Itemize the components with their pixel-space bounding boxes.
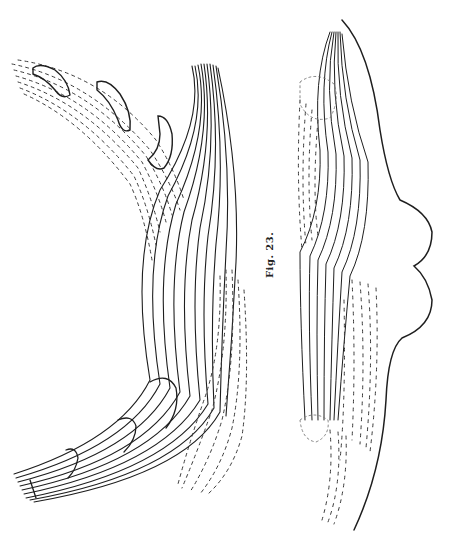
left-fibre-bundle bbox=[14, 64, 237, 502]
right-fibre-bundle bbox=[300, 32, 368, 420]
figure-illustration bbox=[0, 0, 449, 540]
figure-page: Fig. 23. bbox=[0, 0, 449, 540]
left-band-lobes bbox=[33, 65, 172, 169]
right-outer-contour bbox=[342, 20, 432, 530]
left-drawing bbox=[12, 60, 247, 502]
left-bundle-cross-arcs bbox=[30, 378, 177, 498]
right-drawing bbox=[298, 20, 432, 530]
figure-caption: Fig. 23. bbox=[264, 232, 275, 278]
right-dashed-fields bbox=[298, 100, 377, 524]
